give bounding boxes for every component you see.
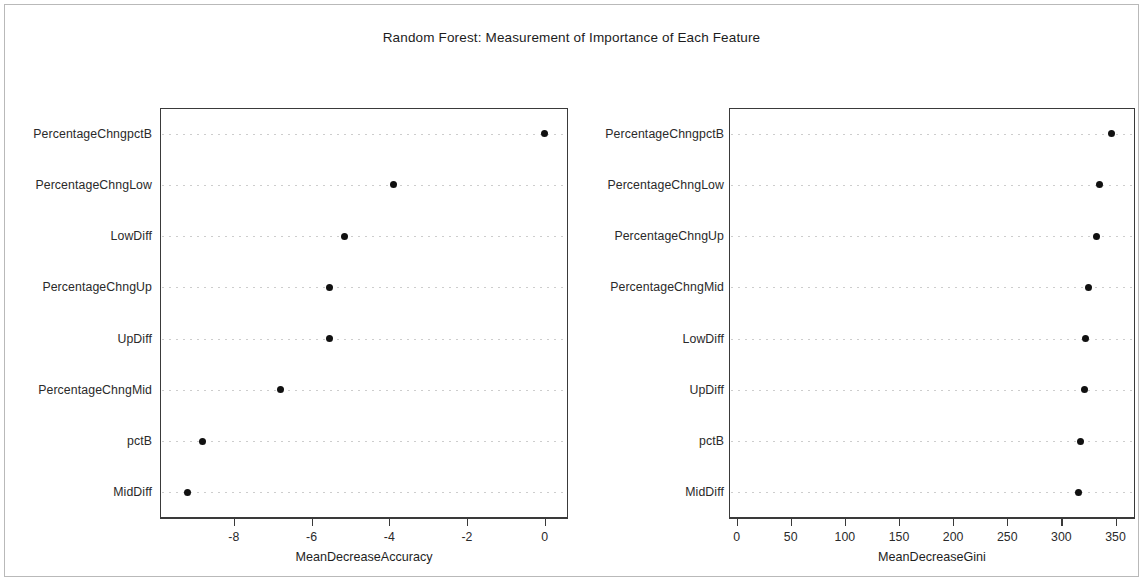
y-axis-tick-label: PercentageChngpctB (605, 127, 724, 141)
x-axis-left: -8-6-4-20 (160, 518, 568, 578)
x-axis-tick-label: 100 (835, 530, 856, 544)
data-point (1081, 386, 1088, 393)
x-axis-tick (737, 519, 738, 526)
y-axis-tick-label: LowDiff (683, 332, 724, 346)
x-axis-tick-label: -8 (228, 530, 239, 544)
y-axis-tick-label: PercentageChngMid (610, 280, 724, 294)
grid-row (731, 287, 1133, 288)
y-axis-labels-right: PercentageChngpctBPercentageChngLowPerce… (572, 108, 724, 518)
x-axis-tick-label: 50 (784, 530, 798, 544)
page-border-right (1138, 4, 1139, 576)
y-axis-tick-label: LowDiff (111, 229, 152, 243)
grid-row (162, 236, 566, 237)
x-axis-tick-label: -2 (462, 530, 473, 544)
x-axis-tick (312, 519, 313, 526)
grid-row (731, 236, 1133, 237)
data-point (1096, 181, 1103, 188)
grid-row (731, 441, 1133, 442)
x-axis-tick-label: 150 (889, 530, 910, 544)
data-point (199, 438, 206, 445)
x-axis-tick-label: 0 (733, 530, 740, 544)
x-axis-tick-label: 250 (997, 530, 1018, 544)
data-point (390, 181, 397, 188)
y-axis-tick-label: PercentageChngUp (42, 280, 152, 294)
data-point (1108, 130, 1115, 137)
grid-row (162, 492, 566, 493)
data-point (1093, 233, 1100, 240)
x-axis-title-left: MeanDecreaseAccuracy (160, 550, 568, 564)
data-point (541, 130, 548, 137)
grid-row (731, 185, 1133, 186)
figure-canvas: Random Forest: Measurement of Importance… (0, 0, 1143, 587)
x-axis-tick-label: -4 (384, 530, 395, 544)
data-point (184, 489, 191, 496)
page-border-top (4, 4, 1139, 5)
x-axis-tick-label: 200 (943, 530, 964, 544)
data-point (1075, 489, 1082, 496)
grid-row (731, 339, 1133, 340)
data-point (1085, 284, 1092, 291)
data-point (1077, 438, 1084, 445)
page-title: Random Forest: Measurement of Importance… (0, 30, 1143, 45)
grid-row (731, 390, 1133, 391)
grid-row (162, 390, 566, 391)
y-axis-labels-left: PercentageChngpctBPercentageChngLowLowDi… (0, 108, 152, 518)
x-axis-tick (389, 519, 390, 526)
y-axis-tick-label: PercentageChngUp (614, 229, 724, 243)
y-axis-tick-label: UpDiff (689, 383, 724, 397)
x-axis-tick-label: 0 (541, 530, 548, 544)
y-axis-tick-label: PercentageChngLow (607, 178, 724, 192)
x-axis-tick (1007, 519, 1008, 526)
x-axis-tick-label: -6 (306, 530, 317, 544)
grid-row (162, 339, 566, 340)
x-axis-title-right: MeanDecreaseGini (729, 550, 1135, 564)
x-axis-tick (467, 519, 468, 526)
grid-row (162, 441, 566, 442)
x-axis-tick (1116, 519, 1117, 526)
x-axis-tick-label: 300 (1051, 530, 1072, 544)
x-axis-tick (234, 519, 235, 526)
x-axis-tick (953, 519, 954, 526)
x-axis-tick-label: 350 (1105, 530, 1126, 544)
data-point (277, 386, 284, 393)
grid-row (162, 134, 566, 135)
plot-area-left (160, 108, 568, 518)
x-axis-tick (1061, 519, 1062, 526)
grid-row (162, 185, 566, 186)
grid-row (162, 287, 566, 288)
x-axis-tick (545, 519, 546, 526)
y-axis-tick-label: pctB (127, 434, 152, 448)
data-point (1082, 335, 1089, 342)
x-axis-line (160, 518, 568, 519)
grid-row (731, 492, 1133, 493)
x-axis-tick (791, 519, 792, 526)
y-axis-tick-label: MidDiff (113, 485, 152, 499)
x-axis-tick (899, 519, 900, 526)
y-axis-tick-label: PercentageChngpctB (33, 127, 152, 141)
x-axis-tick (845, 519, 846, 526)
data-point (326, 335, 333, 342)
y-axis-tick-label: UpDiff (117, 332, 152, 346)
y-axis-tick-label: PercentageChngMid (38, 383, 152, 397)
y-axis-tick-label: pctB (699, 434, 724, 448)
y-axis-tick-label: PercentageChngLow (35, 178, 152, 192)
grid-row (731, 134, 1133, 135)
y-axis-tick-label: MidDiff (685, 485, 724, 499)
plot-area-right (729, 108, 1135, 518)
x-axis-right: 050100150200250300350 (729, 518, 1135, 578)
data-point (341, 233, 348, 240)
data-point (326, 284, 333, 291)
